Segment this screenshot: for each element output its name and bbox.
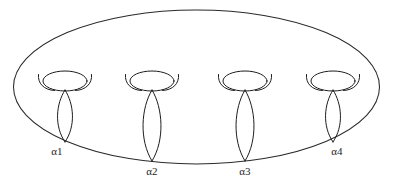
alpha-curve-1-right-lobe	[65, 90, 73, 142]
outer-surface-ellipse	[14, 10, 380, 164]
handle-right-arc-4	[344, 75, 360, 91]
alpha-curve-2-left-lobe	[143, 90, 152, 161]
surface-diagram-canvas: α1 α2 α3 α4	[0, 0, 393, 186]
alpha-curve-4-left-lobe	[325, 90, 333, 142]
handle-group-3	[218, 71, 271, 91]
handle-left-arc-3	[218, 75, 234, 91]
handle-right-arc-2	[163, 75, 179, 91]
handle-ellipse-2	[130, 71, 174, 91]
genus-surface-figure: α1 α2 α3 α4	[0, 0, 393, 186]
handle-group-2	[125, 71, 178, 91]
alpha-curve-2-right-lobe	[152, 90, 161, 161]
alpha-4-label: α4	[331, 145, 343, 157]
alpha-curve-3	[236, 90, 254, 161]
handle-left-arc-4	[306, 75, 322, 91]
alpha-curve-1-left-lobe	[57, 90, 65, 142]
alpha-curve-1	[57, 90, 72, 142]
alpha-curve-4	[325, 90, 340, 142]
handle-ellipse-1	[43, 71, 87, 91]
alpha-curve-2	[143, 90, 161, 161]
alpha-2-label: α2	[146, 165, 157, 177]
handle-left-arc-2	[125, 75, 141, 91]
handle-left-arc-1	[38, 75, 54, 91]
handle-group-4	[306, 71, 359, 91]
handle-right-arc-3	[256, 75, 272, 91]
alpha-curve-3-right-lobe	[245, 90, 254, 161]
alpha-3-label: α3	[239, 165, 251, 177]
alpha-curve-4-right-lobe	[333, 90, 341, 142]
handle-ellipse-3	[223, 71, 267, 91]
alpha-curve-3-left-lobe	[236, 90, 245, 161]
alpha-1-label: α1	[51, 145, 62, 157]
handle-right-arc-1	[76, 75, 92, 91]
handle-ellipse-4	[311, 71, 355, 91]
handle-group-1	[38, 71, 91, 91]
